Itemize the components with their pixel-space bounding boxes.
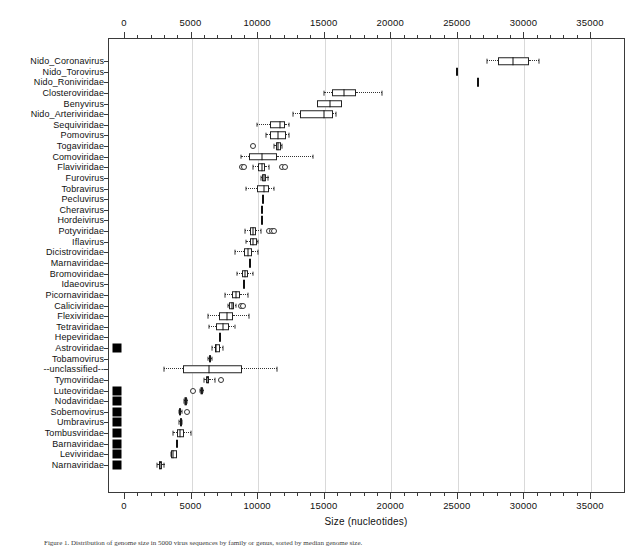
outlier-point	[271, 228, 277, 234]
median-line	[262, 153, 263, 161]
axis-tick-major	[257, 32, 258, 38]
whisker-cap-high	[335, 112, 336, 117]
whisker-cap-high	[289, 133, 290, 138]
category-tick	[104, 306, 108, 307]
category-label: Nodaviridae	[55, 396, 104, 406]
x-tick-label-bottom: 5000	[180, 500, 202, 511]
whisker-high	[277, 156, 313, 158]
whisker-cap-high	[249, 314, 250, 319]
median-line	[185, 397, 186, 405]
axis-tick-major	[257, 493, 258, 499]
whisker-cap-high	[267, 176, 268, 181]
whisker-cap-low	[234, 250, 235, 255]
whisker-cap-low	[237, 271, 238, 276]
median-line	[173, 451, 174, 459]
axis-tick-minor	[297, 493, 298, 496]
category-tick	[104, 189, 108, 190]
top-axis	[108, 38, 625, 39]
axis-tick-minor	[350, 35, 351, 38]
outlier-point	[282, 164, 288, 170]
category-tick	[104, 444, 108, 445]
axis-tick-minor	[284, 493, 285, 496]
axis-tick-minor	[497, 493, 498, 496]
whisker-cap-low	[245, 229, 246, 234]
outlier-point	[190, 388, 196, 394]
whisker-cap-low	[211, 346, 212, 351]
whisker-cap-low	[241, 154, 242, 159]
axis-tick-minor	[217, 493, 218, 496]
whisker-low	[257, 124, 270, 126]
box-degenerate-line	[243, 280, 245, 289]
median-line	[180, 419, 181, 427]
axis-tick-minor	[164, 493, 165, 496]
category-tick	[104, 157, 108, 158]
median-line	[159, 461, 160, 469]
category-label: Astroviridae	[55, 343, 104, 353]
axis-tick-major	[457, 493, 458, 499]
category-label: Tymoviridae	[54, 375, 104, 385]
x-tick-label-bottom: 25000	[443, 500, 470, 511]
axis-tick-minor	[470, 493, 471, 496]
category-label: Bromoviridae	[50, 269, 104, 279]
axis-tick-minor	[364, 493, 365, 496]
x-tick-label-top: 15000	[310, 17, 337, 28]
whisker-cap-low	[274, 144, 275, 149]
box-degenerate-line	[219, 333, 221, 342]
box	[249, 153, 277, 161]
outlier-point	[240, 303, 246, 309]
median-line	[245, 270, 246, 278]
whisker-cap-high	[163, 463, 164, 468]
whisker-cap-low	[246, 186, 247, 191]
whisker-cap-high	[211, 356, 212, 361]
median-line	[278, 142, 279, 150]
axis-tick-minor	[417, 493, 418, 496]
axis-tick-minor	[337, 35, 338, 38]
median-line	[209, 355, 210, 363]
whisker-cap-high	[214, 378, 215, 383]
axis-tick-minor	[204, 493, 205, 496]
axis-tick-minor	[577, 35, 578, 38]
whisker-cap-high	[274, 186, 275, 191]
category-tick	[104, 454, 108, 455]
median-line	[279, 121, 280, 129]
category-tick	[104, 72, 108, 73]
axis-tick-minor	[510, 493, 511, 496]
category-label: Sequiviridae	[53, 120, 104, 130]
median-line	[231, 302, 232, 310]
axis-tick-minor	[284, 35, 285, 38]
axis-tick-minor	[430, 493, 431, 496]
category-tick	[104, 252, 108, 253]
box-degenerate-line	[249, 259, 251, 268]
whisker-low	[293, 113, 300, 115]
category-label: Flexiviridae	[57, 311, 104, 321]
category-label: Furovirus	[66, 173, 104, 183]
category-label: Pomovirus	[61, 130, 104, 140]
x-tick-label-bottom: 30000	[510, 500, 537, 511]
axis-tick-minor	[404, 35, 405, 38]
category-tick	[104, 465, 108, 466]
category-tick	[104, 327, 108, 328]
axis-tick-minor	[231, 35, 232, 38]
median-line	[179, 429, 180, 437]
category-tick	[104, 178, 108, 179]
axis-tick-minor	[244, 35, 245, 38]
whisker-cap-low	[225, 293, 226, 298]
whisker-low	[209, 326, 216, 328]
box-degenerate-line	[176, 439, 178, 448]
category-tick	[104, 263, 108, 264]
axis-tick-minor	[444, 493, 445, 496]
category-label: Cheravirus	[59, 205, 104, 215]
axis-tick-major	[324, 32, 325, 38]
category-tick	[104, 220, 108, 221]
axis-tick-major	[457, 32, 458, 38]
category-tick	[104, 82, 108, 83]
bottom-axis	[108, 492, 625, 493]
host-marker-square	[113, 429, 122, 438]
category-label: Nido_Torovirus	[43, 67, 104, 77]
category-tick	[104, 146, 108, 147]
whisker-high	[529, 60, 540, 62]
whisker-high	[233, 315, 249, 317]
x-tick-label-top: 5000	[180, 17, 202, 28]
host-marker-square	[113, 418, 122, 427]
axis-tick-minor	[350, 493, 351, 496]
